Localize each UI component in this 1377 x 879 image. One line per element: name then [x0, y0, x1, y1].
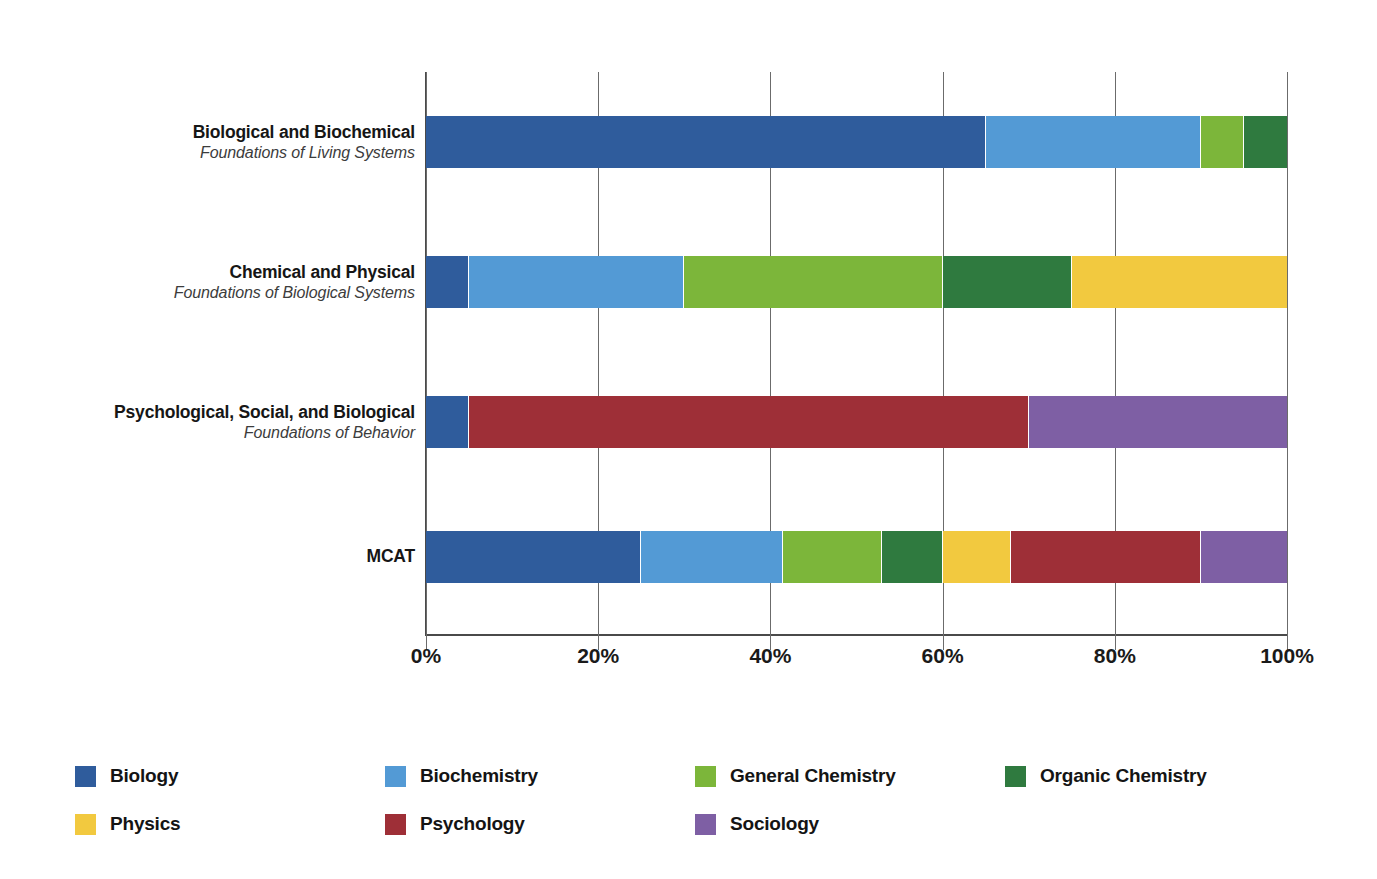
bar-segment-organic-chemistry[interactable] — [1244, 116, 1287, 168]
row-label: MCAT — [20, 546, 415, 567]
bar-segment-biology[interactable] — [426, 116, 986, 168]
x-tick-label: 40% — [749, 644, 791, 668]
legend-label: Sociology — [730, 813, 819, 835]
bar-segment-biochemistry[interactable] — [986, 116, 1201, 168]
legend-label: Physics — [110, 813, 180, 835]
stacked-bar-chart: Biological and BiochemicalFoundations of… — [0, 0, 1377, 700]
row-label: Chemical and PhysicalFoundations of Biol… — [20, 262, 415, 303]
legend-item[interactable]: Sociology — [695, 800, 1005, 848]
x-tick-label: 60% — [922, 644, 964, 668]
legend-item[interactable]: Psychology — [385, 800, 695, 848]
bar-row: Chemical and PhysicalFoundations of Biol… — [0, 256, 1377, 308]
bar-segment-biology[interactable] — [426, 256, 469, 308]
legend-item[interactable]: Biochemistry — [385, 752, 695, 800]
legend-item[interactable]: General Chemistry — [695, 752, 1005, 800]
legend-label: Organic Chemistry — [1040, 765, 1207, 787]
bar-segment-general-chemistry[interactable] — [1201, 116, 1244, 168]
bar-row: Biological and BiochemicalFoundations of… — [0, 116, 1377, 168]
x-tick-label: 0% — [411, 644, 441, 668]
row-label: Psychological, Social, and BiologicalFou… — [20, 402, 415, 443]
bar-segment-organic-chemistry[interactable] — [882, 531, 942, 583]
legend-swatch-icon — [695, 814, 716, 835]
legend-swatch-icon — [385, 766, 406, 787]
x-tick-label: 20% — [577, 644, 619, 668]
bar-segment-general-chemistry[interactable] — [783, 531, 882, 583]
x-tick-label: 80% — [1094, 644, 1136, 668]
legend-item[interactable]: Physics — [75, 800, 385, 848]
bar-row: Psychological, Social, and BiologicalFou… — [0, 396, 1377, 448]
legend-item[interactable]: Biology — [75, 752, 385, 800]
bar-segment-biochemistry[interactable] — [641, 531, 783, 583]
row-label-primary: MCAT — [20, 546, 415, 567]
legend-swatch-icon — [1005, 766, 1026, 787]
row-label-secondary: Foundations of Biological Systems — [20, 283, 415, 303]
legend-swatch-icon — [75, 814, 96, 835]
bar-segment-psychology[interactable] — [469, 396, 1029, 448]
stacked-bar[interactable] — [426, 531, 1287, 583]
bar-segment-psychology[interactable] — [1011, 531, 1200, 583]
row-label-secondary: Foundations of Living Systems — [20, 143, 415, 163]
bar-segment-biochemistry[interactable] — [469, 256, 684, 308]
bar-segment-biology[interactable] — [426, 396, 469, 448]
bar-segment-physics[interactable] — [1072, 256, 1287, 308]
bar-segment-biology[interactable] — [426, 531, 641, 583]
legend-label: Biochemistry — [420, 765, 538, 787]
legend-label: Biology — [110, 765, 178, 787]
row-label-secondary: Foundations of Behavior — [20, 423, 415, 443]
bar-segment-sociology[interactable] — [1201, 531, 1287, 583]
bar-segment-general-chemistry[interactable] — [684, 256, 942, 308]
x-axis-baseline — [425, 634, 1287, 636]
bar-segment-sociology[interactable] — [1029, 396, 1287, 448]
legend-swatch-icon — [75, 766, 96, 787]
chart-legend: BiologyBiochemistryGeneral ChemistryOrga… — [75, 752, 1315, 848]
row-label-primary: Chemical and Physical — [20, 262, 415, 283]
stacked-bar[interactable] — [426, 396, 1287, 448]
x-tick-label: 100% — [1260, 644, 1314, 668]
legend-item[interactable]: Organic Chemistry — [1005, 752, 1315, 800]
bar-segment-organic-chemistry[interactable] — [943, 256, 1072, 308]
legend-swatch-icon — [695, 766, 716, 787]
bar-segment-physics[interactable] — [943, 531, 1012, 583]
row-label-primary: Psychological, Social, and Biological — [20, 402, 415, 423]
stacked-bar[interactable] — [426, 116, 1287, 168]
stacked-bar[interactable] — [426, 256, 1287, 308]
legend-swatch-icon — [385, 814, 406, 835]
row-label-primary: Biological and Biochemical — [20, 122, 415, 143]
legend-label: General Chemistry — [730, 765, 896, 787]
row-label: Biological and BiochemicalFoundations of… — [20, 122, 415, 163]
legend-label: Psychology — [420, 813, 525, 835]
bar-row: MCAT — [0, 531, 1377, 583]
